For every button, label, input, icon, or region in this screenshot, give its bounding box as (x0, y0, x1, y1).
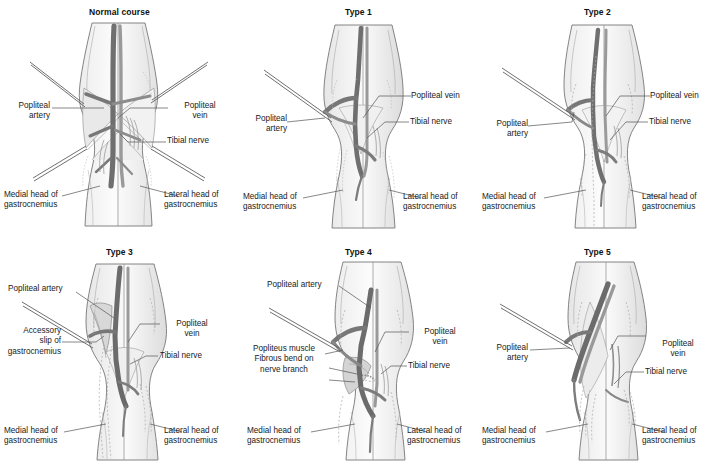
label-medial-head-gastrocnemius: Medial head of gastrocnemius (482, 192, 552, 213)
label-lateral-head-gastrocnemius: Lateral head of gastrocnemius (642, 192, 716, 213)
label-popliteal-artery: Popliteal artery (267, 280, 353, 290)
label-popliteal-vein: Popliteal vein (647, 339, 709, 360)
label-lateral-head-gastrocnemius: Lateral head of gastrocnemius (407, 426, 478, 447)
label-lateral-head-gastrocnemius: Lateral head of gastrocnemius (164, 190, 238, 211)
label-medial-head-gastrocnemius: Medial head of gastrocnemius (4, 190, 74, 211)
label-medial-head-gastrocnemius: Medial head of gastrocnemius (4, 426, 74, 447)
label-tibial-nerve: Tibial nerve (649, 117, 715, 127)
panel-type-1: Type 1 (239, 0, 478, 240)
label-popliteal-vein: Popliteal vein (650, 91, 717, 101)
label-tibial-nerve: Tibial nerve (408, 361, 476, 371)
label-medial-head-gastrocnemius: Medial head of gastrocnemius (482, 426, 552, 447)
label-lateral-head-gastrocnemius: Lateral head of gastrocnemius (403, 192, 477, 213)
label-lateral-head-gastrocnemius: Lateral head of gastrocnemius (164, 426, 238, 447)
label-medial-head-gastrocnemius: Medial head of gastrocnemius (247, 426, 317, 447)
panel-type-5: Type 5 (478, 240, 717, 466)
label-popliteal-vein: Popliteal vein (409, 327, 471, 348)
label-popliteal-artery: Popliteal artery (0, 101, 50, 122)
label-medial-head-gastrocnemius: Medial head of gastrocnemius (243, 192, 313, 213)
label-accessory-slip-gastrocnemius: Accessory slip of gastrocnemius (0, 326, 61, 357)
panel-type-3: Type 3 (0, 240, 239, 466)
label-popliteal-vein: Popliteal vein (411, 91, 478, 101)
panel-normal-course: Normal course (0, 0, 239, 240)
label-popliteal-artery: Popliteal artery (239, 114, 287, 135)
label-popliteal-artery: Popliteal artery (478, 119, 528, 140)
panel-type-2: Type 2 (478, 0, 717, 240)
label-popliteal-artery: Popliteal artery (478, 343, 528, 364)
label-tibial-nerve: Tibial nerve (410, 117, 476, 127)
panel-type-4: Type 4 (239, 240, 478, 466)
figure-panel-grid: Normal course (0, 0, 717, 466)
label-tibial-nerve: Tibial nerve (167, 136, 237, 146)
label-tibial-nerve: Tibial nerve (645, 367, 713, 377)
label-popliteal-vein: Popliteal vein (161, 319, 223, 340)
label-popliteal-vein: Popliteal vein (169, 101, 231, 122)
label-lateral-head-gastrocnemius: Lateral head of gastrocnemius (642, 426, 716, 447)
label-popliteal-artery: Popliteal artery (8, 284, 94, 294)
label-tibial-nerve: Tibial nerve (160, 351, 228, 361)
label-popliteus-muscle-fibrous-bend: Popliteus muscle Fibrous bend on nerve b… (239, 344, 329, 375)
